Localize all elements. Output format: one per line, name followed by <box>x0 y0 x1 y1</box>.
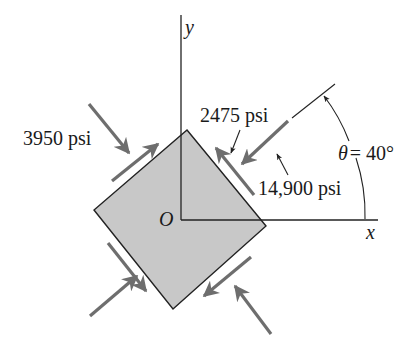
normal-stress-arrow-upper-right <box>242 121 288 164</box>
origin-label: O <box>159 208 173 230</box>
angle-label: θ= 40° <box>338 142 394 164</box>
shear-label-leader <box>231 130 240 153</box>
angle-arc <box>356 158 365 219</box>
normal-stress-arrow-upper-left <box>89 104 129 153</box>
stress-label-2475: 2475 psi <box>200 104 269 127</box>
y-axis-label: y <box>183 16 194 39</box>
stress-label-14900: 14,900 psi <box>258 177 342 200</box>
rotated-axis-line <box>292 84 335 118</box>
normal-stress-arrow-lower-left <box>90 276 137 316</box>
stress-element-diagram: y x O 3950 psi 2475 psi 14,900 psi θ= 40… <box>0 0 415 352</box>
angle-value: = 40° <box>350 142 394 164</box>
angle-arc-upper <box>324 96 349 141</box>
stress-label-3950: 3950 psi <box>23 127 92 150</box>
theta-symbol: θ <box>338 142 348 164</box>
x-axis-label: x <box>365 221 375 243</box>
normal-stress-arrow-lower-right <box>235 286 271 334</box>
normal-label-leader <box>277 154 288 175</box>
